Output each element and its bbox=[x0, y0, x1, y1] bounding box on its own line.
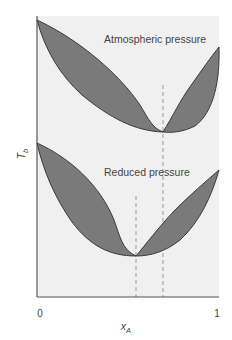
y-axis-label: Tb bbox=[15, 149, 30, 160]
y-axis-label-sub: b bbox=[21, 149, 30, 153]
label-atmospheric-pressure: Atmospheric pressure bbox=[104, 33, 206, 45]
x-axis-label-sub: A bbox=[125, 326, 131, 335]
x-tick-0: 0 bbox=[37, 308, 43, 319]
svg-text:Tb: Tb bbox=[15, 149, 30, 160]
label-reduced-pressure: Reduced pressure bbox=[104, 166, 190, 178]
phase-diagram: Atmospheric pressure Reduced pressure Tb… bbox=[0, 0, 232, 340]
x-axis-label: xA bbox=[120, 320, 131, 335]
x-tick-1: 1 bbox=[214, 308, 220, 319]
